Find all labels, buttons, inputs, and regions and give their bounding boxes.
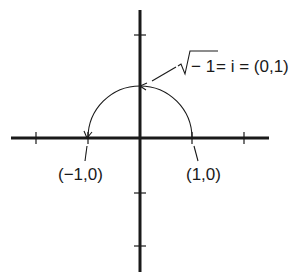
pointer-line-i <box>152 67 176 81</box>
complex-plane-diagram: − 1 = i = (0,1) (−1,0) (1,0) <box>0 0 304 279</box>
pointer-line-neg-one <box>85 146 87 161</box>
label-i-rest: = i = (0,1) <box>216 57 289 76</box>
pointer-line-one <box>194 146 198 161</box>
label-neg-one-point: (−1,0) <box>58 165 103 184</box>
label-i-radicand: − 1 <box>191 57 215 76</box>
label-one-point: (1,0) <box>186 165 221 184</box>
